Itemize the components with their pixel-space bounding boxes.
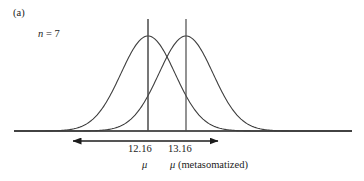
sample-size-value: = 7 <box>43 28 59 39</box>
value-label-left: 12.16 <box>128 144 152 155</box>
sample-size-label: n = 7 <box>38 29 60 40</box>
normal-curve-metasomatized <box>14 36 352 131</box>
mu-qualifier-right: (metasomatized) <box>175 159 248 170</box>
normal-curve-unaltered <box>14 36 352 131</box>
value-label-right: 13.16 <box>168 144 192 155</box>
panel-label: (a) <box>13 8 25 19</box>
mu-label-left: μ <box>142 160 147 171</box>
mu-label-right: μ (metasomatized) <box>170 160 248 171</box>
figure-panel-a: (a) n = 7 12.16 13.16 μ μ (metasomatized… <box>0 0 364 181</box>
